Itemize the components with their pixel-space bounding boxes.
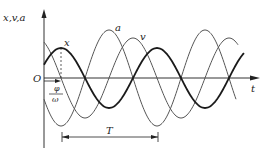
x-axis-arrow-icon <box>250 76 260 81</box>
period-label: T <box>106 125 114 136</box>
curve-label-v: v <box>140 31 146 42</box>
period-arrow-left-icon <box>62 135 69 139</box>
curve-label-a: a <box>115 22 121 33</box>
origin-label: O <box>33 73 41 84</box>
y-axis-label: x,v,a <box>3 12 25 23</box>
period-arrow-right-icon <box>151 135 158 139</box>
shm-diagram: x,v,a t O x v a φ ω T <box>0 0 272 153</box>
x-axis-label: t <box>251 83 256 94</box>
phase-denominator: ω <box>52 95 59 104</box>
phase-arrow-head-icon <box>55 79 61 83</box>
phase-numerator: φ <box>54 84 60 93</box>
y-axis-arrow-icon <box>42 9 47 18</box>
curve-label-x: x <box>64 37 70 48</box>
